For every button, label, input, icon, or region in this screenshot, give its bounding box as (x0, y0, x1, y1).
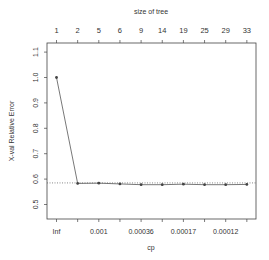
data-point (161, 183, 164, 186)
top-tick-label: 19 (179, 26, 187, 35)
y-tick-label: 0.5 (32, 200, 39, 210)
bottom-tick-label: 0.001 (90, 228, 108, 235)
data-series (55, 76, 248, 186)
data-point (203, 183, 206, 186)
bottom-axis: Inf0.0010.000360.000170.00012 (53, 219, 247, 235)
top-tick-label: 9 (139, 26, 143, 35)
top-axis-title: size of tree (134, 8, 168, 15)
y-tick-label: 1.0 (32, 73, 39, 83)
top-axis: 125691419252933 (54, 26, 251, 43)
y-tick-label: 0.7 (32, 149, 39, 159)
data-point (140, 183, 143, 186)
top-tick-label: 2 (76, 26, 80, 35)
bottom-tick-label: 0.00012 (213, 228, 238, 235)
cp-plot: size of tree 125691419252933 0.50.60.70.… (0, 0, 269, 260)
x-axis-title: cp (147, 244, 155, 252)
y-tick-label: 0.8 (32, 123, 39, 133)
data-point (245, 183, 248, 186)
plot-frame (47, 43, 256, 219)
bottom-tick-label: 0.00036 (128, 228, 153, 235)
y-tick-label: 1.1 (32, 47, 39, 57)
top-tick-label: 29 (222, 26, 230, 35)
y-tick-label: 0.9 (32, 98, 39, 108)
top-tick-label: 33 (243, 26, 251, 35)
top-tick-label: 14 (158, 26, 166, 35)
data-point (119, 183, 122, 186)
data-point (182, 183, 185, 186)
data-point (76, 182, 79, 185)
data-point (224, 183, 227, 186)
top-tick-label: 6 (118, 26, 122, 35)
y-tick-label: 0.6 (32, 174, 39, 184)
data-point (55, 76, 58, 79)
data-point (97, 182, 100, 185)
top-tick-label: 25 (200, 26, 208, 35)
top-tick-label: 5 (97, 26, 101, 35)
y-axis-title: X-val Relative Error (8, 100, 15, 161)
top-tick-label: 1 (54, 26, 58, 35)
y-axis: 0.50.60.70.80.91.01.1 (32, 47, 47, 209)
series-line (57, 78, 247, 185)
bottom-tick-label: 0.00017 (171, 228, 196, 235)
bottom-tick-label: Inf (53, 228, 61, 235)
